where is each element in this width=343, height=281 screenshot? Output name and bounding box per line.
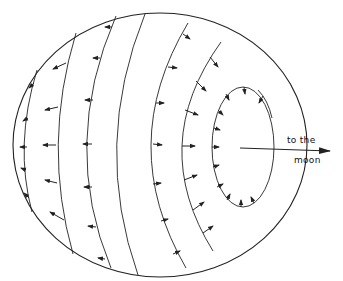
arrows-arc-2 (43, 63, 66, 220)
contour-arc-3 (87, 16, 116, 268)
contour-arc-2 (58, 33, 76, 254)
inner-ellipse (212, 87, 274, 207)
contour-arc-4 (117, 14, 145, 275)
tidal-diagram: to the moon (0, 0, 343, 281)
arrows-arc-6 (182, 57, 218, 233)
arrows-arc-5 (153, 34, 190, 254)
arrows-arc-3 (83, 27, 112, 259)
label-moon: moon (294, 155, 321, 165)
moon-direction-arrow (240, 148, 330, 151)
label-to-the: to the (287, 135, 316, 145)
arrows-inner-ellipse (212, 87, 263, 207)
